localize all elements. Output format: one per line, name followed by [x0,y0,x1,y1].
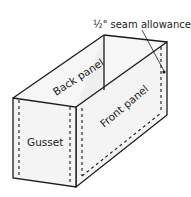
gusset-label: Gusset [27,136,63,148]
seam-allowance-dot [162,70,165,73]
seam-allowance-label: ½" seam allowance [93,19,191,30]
box-diagram: ½" seam allowance Back panel Front panel… [0,0,191,197]
